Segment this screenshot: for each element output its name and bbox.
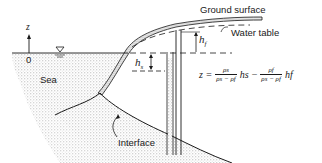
formula-minus: −: [252, 69, 258, 80]
formula-frac1-numerator: ρs: [222, 66, 230, 74]
z-axis-arrowhead: [27, 34, 31, 39]
hs-label: hs: [135, 56, 143, 71]
hf-label-sub: f: [205, 40, 207, 48]
formula-frac2-denominator: ρs − ρf: [260, 74, 282, 83]
formula-term-hs: hs: [240, 69, 249, 80]
z-axis-label: z: [26, 22, 30, 32]
formula-frac2-numerator: ρf: [267, 66, 274, 74]
piezometer-fill: [168, 58, 172, 155]
ground-surface-label: Ground surface: [200, 4, 265, 15]
hs-arrow-up: [149, 54, 153, 58]
hs-arrow-down: [149, 66, 153, 70]
hf-label: hf: [199, 33, 206, 48]
formula-fraction-2: ρf ρs − ρf: [260, 66, 282, 83]
ghyben-herzberg-formula: z = ρs ρs − ρf hs − ρf ρs − ρf hf: [199, 66, 293, 83]
origin-label: 0: [26, 54, 31, 65]
hs-label-sub: s: [141, 63, 144, 71]
water-level-icon: [56, 47, 64, 52]
water-table-leader: [221, 27, 228, 32]
formula-frac1-denominator: ρs − ρf: [215, 74, 237, 83]
hf-arrow-up: [194, 32, 198, 36]
sea-label: Sea: [40, 74, 57, 85]
formula-fraction-1: ρs ρs − ρf: [215, 66, 237, 83]
interface-label: Interface: [118, 137, 155, 148]
formula-term-hf: hf: [285, 69, 293, 80]
formula-lhs: z =: [199, 69, 212, 80]
water-table-label: Water table: [231, 27, 279, 38]
